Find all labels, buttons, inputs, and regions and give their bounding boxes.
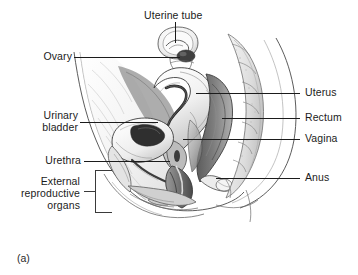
label-urinary-bladder-line1: Urinary xyxy=(8,110,78,122)
label-ovary: Ovary xyxy=(8,51,72,63)
label-anus: Anus xyxy=(305,172,329,184)
label-uterine-tube: Uterine tube xyxy=(144,10,202,22)
label-uterus: Uterus xyxy=(305,87,337,99)
label-urinary-bladder-line2: bladder xyxy=(8,122,78,134)
label-external-line3: organs xyxy=(0,200,80,212)
external-organs-bracket xyxy=(84,170,112,213)
uterine-tube-group xyxy=(158,27,198,72)
figure-container: Uterine tube Ovary Urinary bladder Ureth… xyxy=(0,0,358,275)
label-external-line2: reproductive xyxy=(0,188,80,200)
label-urethra: Urethra xyxy=(8,155,81,167)
label-external-line1: External xyxy=(0,176,80,188)
figure-caption: (a) xyxy=(17,252,30,264)
label-vagina: Vagina xyxy=(305,133,338,145)
label-rectum: Rectum xyxy=(305,112,342,124)
